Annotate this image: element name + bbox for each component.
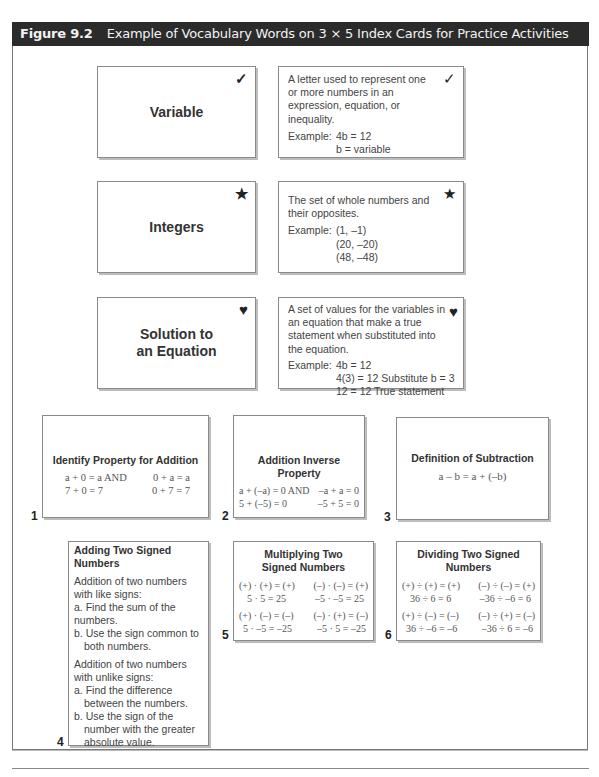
card-number-2: 2: [222, 509, 229, 523]
formula: a – b = a + (–b): [403, 470, 542, 482]
card-number-4: 4: [57, 735, 64, 749]
formula-row: 5 + (–5) = 0 –5 + 5 = 0: [239, 497, 359, 510]
definition-text: A letter used to represent one or more n…: [288, 73, 454, 126]
formula: (+) ÷ (+) = (+): [402, 579, 460, 592]
term-card-solution: ♥ Solution to an Equation: [97, 297, 256, 389]
formula-row: (+) ÷ (–) = (–) (–) ÷ (+) = (–): [402, 609, 535, 622]
card-number-6: 6: [385, 628, 392, 642]
formula: –36 ÷ –6 = 6: [480, 592, 531, 605]
heart-icon: ♥: [449, 304, 458, 319]
example-label: Example:: [288, 359, 336, 399]
formula-row: 5 · –5 = –25 –5 · 5 = –25: [239, 622, 368, 635]
card-title: Definition of Subtraction: [403, 452, 542, 465]
figure-label: Figure 9.2: [20, 26, 93, 41]
formula: a + (–a) = 0 AND: [239, 484, 309, 497]
formula: 5 · 5 = 25: [247, 592, 286, 605]
star-icon: ★: [443, 186, 456, 201]
example-label: Example:: [288, 224, 336, 264]
formula-row: 36 ÷ 6 = 6 –36 ÷ –6 = 6: [402, 592, 535, 605]
formula: 36 ÷ 6 = 6: [410, 592, 451, 605]
formula-row: (+) · (+) = (+) (–) · (–) = (+): [239, 579, 368, 592]
check-mark-icon: ✓: [443, 71, 456, 86]
example-line: 4b = 12: [336, 130, 391, 143]
card-number-5: 5: [222, 628, 229, 642]
card-title: Multiplying Two Signed Numbers: [239, 548, 368, 574]
property-card-6: Dividing Two Signed Numbers (+) ÷ (+) = …: [396, 541, 541, 641]
heart-icon: ♥: [239, 302, 248, 317]
term-card-variable: ✓ Variable: [97, 66, 256, 158]
figure-header: Figure 9.2 Example of Vocabulary Words o…: [12, 22, 589, 46]
term-text-line2: an Equation: [136, 343, 216, 360]
like-signs-steps: a. Find the sum of the numbers. b. Use t…: [74, 601, 203, 653]
formula-row: (+) · (–) = (–) (–) · (+) = (–): [239, 609, 368, 622]
formula: (–) ÷ (–) = (+): [478, 579, 535, 592]
card-number-3: 3: [384, 510, 391, 524]
term-card-integers: ★ Integers: [97, 181, 256, 273]
formula: 5 · –5 = –25: [243, 622, 292, 635]
card-number-1: 1: [31, 509, 38, 523]
like-signs-intro: Addition of two numbers with like signs:: [74, 575, 203, 601]
formula-row: 36 ÷ –6 = –6 –36 ÷ 6 = –6: [402, 622, 535, 635]
example-line: 12 = 12 True statement: [336, 385, 455, 398]
step: a. Find the sum of the numbers.: [74, 601, 203, 627]
formula: 7 + 0 = 7: [65, 484, 103, 497]
example: Example: 4b = 12 4(3) = 12 Substitute b …: [288, 359, 454, 399]
formula: (–) · (–) = (+): [313, 579, 368, 592]
formula-row: 5 · 5 = 25 –5 · –5 = 25: [239, 592, 368, 605]
unlike-signs-steps: a. Find the difference between the numbe…: [74, 684, 203, 749]
property-card-1: Identify Property for Addition a + 0 = a…: [42, 415, 209, 518]
formula: –36 ÷ 6 = –6: [482, 622, 533, 635]
star-icon: ★: [235, 186, 248, 201]
example: Example: (1, –1) (20, –20) (48, –48): [288, 224, 454, 264]
step: a. Find the difference between the numbe…: [74, 684, 203, 710]
card-title: Adding Two Signed Numbers: [74, 544, 203, 570]
example-line: b = variable: [336, 143, 391, 156]
formula-row: a + 0 = a AND 0 + a = a: [51, 471, 200, 484]
formula: 0 + a = a: [153, 471, 190, 484]
formula: –5 · –5 = 25: [315, 592, 364, 605]
property-card-4: Adding Two Signed Numbers Addition of tw…: [68, 541, 209, 746]
bottom-rule: [12, 768, 589, 769]
example: Example: 4b = 12 b = variable: [288, 130, 454, 156]
example-line: (1, –1): [336, 224, 378, 237]
definition-text: A set of values for the variables in an …: [288, 303, 454, 356]
unlike-signs-intro: Addition of two numbers with unlike sign…: [74, 658, 203, 684]
formula: (+) · (–) = (–): [239, 609, 294, 622]
formula: –a + a = 0: [319, 484, 359, 497]
example-label: Example:: [288, 130, 336, 156]
figure-title: Example of Vocabulary Words on 3 × 5 Ind…: [107, 26, 569, 41]
example-line: 4b = 12: [336, 359, 455, 372]
formula-row: (+) ÷ (+) = (+) (–) ÷ (–) = (+): [402, 579, 535, 592]
definition-card-solution: ♥ A set of values for the variables in a…: [278, 297, 464, 389]
formula: (+) ÷ (–) = (–): [402, 609, 459, 622]
formula-row: a + (–a) = 0 AND –a + a = 0: [239, 484, 359, 497]
card-title: Addition Inverse Property: [239, 454, 359, 480]
term-text: Variable: [150, 104, 204, 121]
card-title: Identify Property for Addition: [51, 454, 200, 467]
step: b. Use the sign of the number with the g…: [74, 710, 203, 749]
formula-row: 7 + 0 = 7 0 + 7 = 7: [51, 484, 200, 497]
formula: –5 + 5 = 0: [318, 497, 359, 510]
check-mark-icon: ✓: [235, 71, 248, 86]
example-line: (48, –48): [336, 251, 378, 264]
property-card-3: Definition of Subtraction a – b = a + (–…: [396, 417, 549, 520]
example-line: (20, –20): [336, 238, 378, 251]
formula: (+) · (+) = (+): [239, 579, 295, 592]
property-card-2: Addition Inverse Property a + (–a) = 0 A…: [233, 415, 365, 518]
example-line: 4(3) = 12 Substitute b = 3: [336, 372, 455, 385]
definition-card-integers: ★ The set of whole numbers and their opp…: [278, 181, 464, 273]
term-text-line1: Solution to: [140, 326, 213, 343]
step: b. Use the sign common to both numbers.: [74, 627, 203, 653]
card-title: Dividing Two Signed Numbers: [402, 548, 535, 574]
formula: 0 + 7 = 7: [152, 484, 190, 497]
formula: 36 ÷ –6 = –6: [406, 622, 457, 635]
definition-card-variable: ✓ A letter used to represent one or more…: [278, 66, 464, 158]
property-card-5: Multiplying Two Signed Numbers (+) · (+)…: [233, 541, 374, 641]
formula: 5 + (–5) = 0: [239, 497, 287, 510]
formula: (–) ÷ (+) = (–): [478, 609, 535, 622]
formula: a + 0 = a AND: [65, 471, 127, 484]
term-text: Integers: [149, 219, 203, 236]
formula: –5 · 5 = –25: [317, 622, 366, 635]
definition-text: The set of whole numbers and their oppos…: [288, 194, 454, 220]
formula: (–) · (+) = (–): [313, 609, 368, 622]
